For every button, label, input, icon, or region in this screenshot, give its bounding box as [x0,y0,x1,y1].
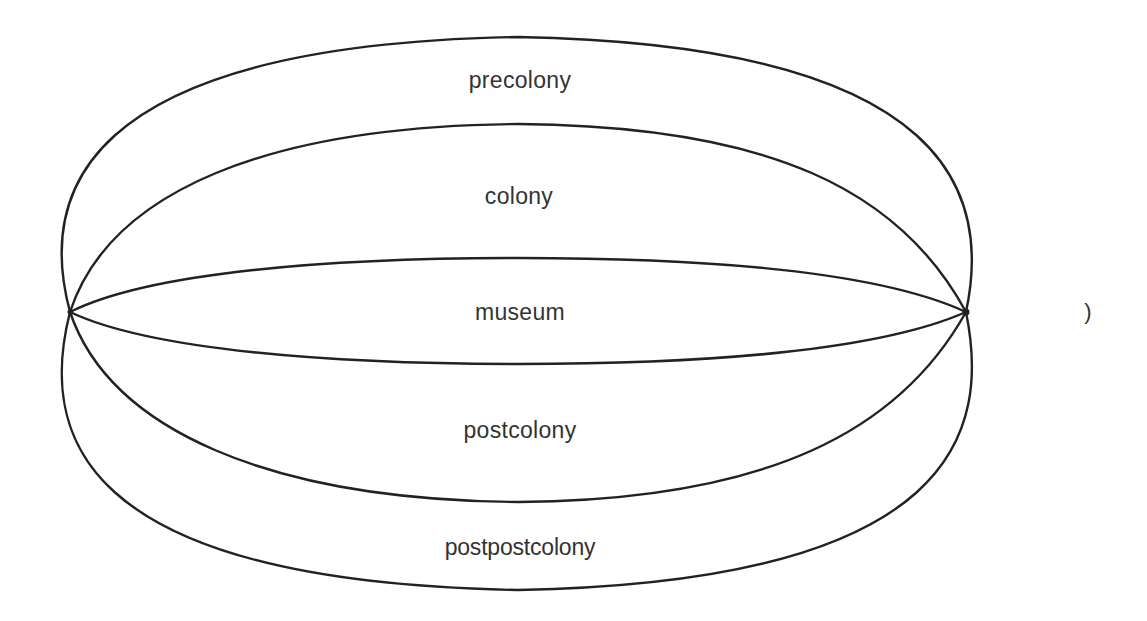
postcolony-bottom-arc [70,312,966,502]
label-precolony: precolony [469,67,571,94]
label-postcolony: postcolony [464,417,577,444]
stray-parenthesis: ) [1084,299,1091,325]
left-vertex [68,310,73,315]
colony-top-arc [70,124,966,312]
label-postpostcolony: postpostcolony [445,534,596,561]
label-museum: museum [475,299,565,326]
label-colony: colony [485,183,553,210]
nested-arcs-diagram [0,0,1147,621]
right-vertex [963,309,970,316]
